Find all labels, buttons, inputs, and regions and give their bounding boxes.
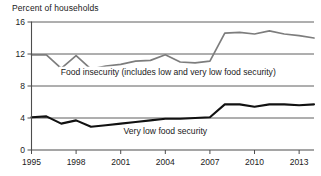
line-chart-svg: 0481216 1995199820012004200720102013 Foo… [0, 0, 321, 176]
chart-figure: Percent of households 0481216 1995199820… [0, 0, 321, 176]
x-axis-ticks-group: 1995199820012004200720102013 [22, 150, 309, 167]
series-line-food-insecurity [32, 31, 315, 69]
series-line-very-low-food-security [32, 104, 315, 126]
annotation-very-low-food-security: Very low food security [124, 126, 208, 136]
annotation-food-insecurity: Food insecurity (includes low and very l… [61, 67, 276, 77]
x-tick-label-2004: 2004 [156, 157, 175, 167]
y-tick-label-16: 16 [16, 17, 26, 27]
y-tick-label-12: 12 [16, 49, 26, 59]
y-axis-ticks-group: 0481216 [16, 17, 32, 155]
y-tick-label-4: 4 [20, 113, 25, 123]
x-tick-label-1998: 1998 [67, 157, 86, 167]
x-tick-label-2010: 2010 [245, 157, 264, 167]
y-tick-label-0: 0 [20, 145, 25, 155]
x-tick-label-1995: 1995 [22, 157, 41, 167]
x-tick-label-2001: 2001 [111, 157, 130, 167]
data-series-group [32, 31, 315, 127]
plot-area: 0481216 1995199820012004200720102013 Foo… [0, 0, 321, 176]
x-tick-label-2013: 2013 [290, 157, 309, 167]
x-tick-label-2007: 2007 [200, 157, 219, 167]
y-tick-label-8: 8 [20, 81, 25, 91]
